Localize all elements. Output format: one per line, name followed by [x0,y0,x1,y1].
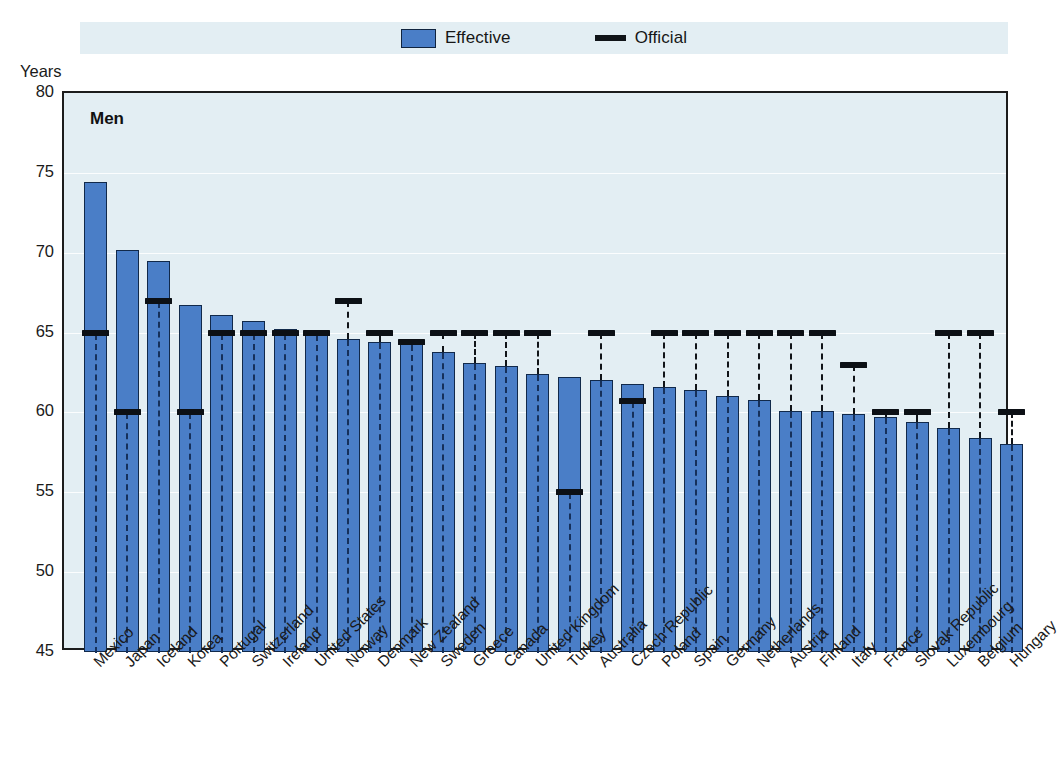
bar-effective [716,396,739,652]
legend-item-official: Official [595,28,687,48]
official-marker [303,330,330,336]
official-leader-line [979,333,981,438]
official-marker [746,330,773,336]
official-marker [272,330,299,336]
official-dashed-line [95,334,97,653]
official-marker [430,330,457,336]
official-leader-line [948,333,950,429]
official-leader-line [600,333,602,381]
plot-area: Men [62,91,1008,650]
legend-item-effective: Effective [401,28,511,48]
official-leader-line [758,333,760,400]
official-dashed-line [221,334,223,653]
gridline [64,173,1006,174]
official-marker [651,330,678,336]
official-dashed-line [632,402,634,653]
official-dashed-line [727,397,729,653]
official-marker [556,489,583,495]
bar-effective [210,315,233,652]
y-axis-tick-label: 50 [8,561,54,580]
bar-effective [84,182,107,652]
official-dashed-line [758,401,760,653]
bar-effective [116,250,139,652]
official-dashed-line [916,423,918,653]
official-line-icon [595,35,626,41]
official-marker [461,330,488,336]
x-axis-labels: MexicoJapanIcelandKoreaPortugalSwitzerla… [62,652,1008,764]
bar-effective [526,374,549,652]
official-dashed-line [316,335,318,653]
plot-inner: Men [64,93,1006,648]
bar-effective [179,305,202,652]
bar-effective [274,329,297,652]
official-dashed-line [253,334,255,653]
y-axis-tick-label: 70 [8,242,54,261]
official-marker [588,330,615,336]
official-dashed-line [158,302,160,653]
official-leader-line [663,333,665,387]
official-marker [240,330,267,336]
bar-effective [432,352,455,652]
chart-legend: Effective Official [80,22,1008,54]
official-leader-line [727,333,729,397]
official-dashed-line [853,415,855,653]
bar-effective [906,422,929,652]
official-dashed-line [126,413,128,653]
official-leader-line [821,333,823,411]
legend-label-official: Official [635,28,687,48]
official-dashed-line [442,353,444,653]
official-marker [335,298,362,304]
official-marker [366,330,393,336]
official-leader-line [347,301,349,339]
y-axis-tick-label: 55 [8,481,54,500]
official-leader-line [695,333,697,390]
official-dashed-line [284,334,286,653]
gridline [64,253,1006,254]
official-dashed-line [347,340,349,653]
official-marker [714,330,741,336]
y-axis-title: Years [20,62,62,81]
official-marker [840,362,867,368]
bar-effective [400,344,423,652]
official-marker [682,330,709,336]
bar-effective [621,384,644,652]
official-leader-line [1011,412,1013,444]
bar-effective [147,261,170,652]
official-marker [493,330,520,336]
official-dashed-line [885,418,887,653]
official-leader-line [790,333,792,411]
official-dashed-line [790,412,792,653]
official-dashed-line [505,367,507,653]
official-marker [208,330,235,336]
effective-swatch-icon [401,29,436,48]
official-marker [145,298,172,304]
bar-effective [305,334,328,652]
official-dashed-line [189,413,191,653]
official-dashed-line [821,412,823,653]
official-marker [809,330,836,336]
official-leader-line [853,365,855,415]
panel-label: Men [90,109,124,129]
y-axis-tick-label: 75 [8,162,54,181]
official-marker [524,330,551,336]
bar-effective [842,414,865,652]
official-marker [872,409,899,415]
official-marker [967,330,994,336]
y-axis-tick-label: 45 [8,641,54,660]
official-marker [777,330,804,336]
official-dashed-line [411,345,413,653]
official-marker [998,409,1025,415]
bar-effective [874,417,897,652]
official-marker [114,409,141,415]
y-axis-tick-label: 65 [8,322,54,341]
y-axis-tick-label: 80 [8,82,54,101]
official-leader-line [537,333,539,375]
official-dashed-line [537,375,539,653]
official-marker [619,398,646,404]
official-dashed-line [663,388,665,653]
official-marker [398,339,425,345]
official-marker [935,330,962,336]
official-marker [82,330,109,336]
official-marker [904,409,931,415]
